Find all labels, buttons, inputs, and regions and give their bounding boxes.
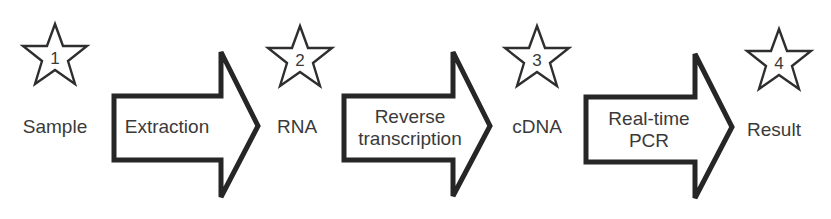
step-label-line1: Real-time <box>608 108 689 129</box>
node-cdna: 3 cDNA <box>505 26 569 137</box>
step-arrow-real-time-pcr: Real-time PCR <box>586 54 732 198</box>
step-arrow-extraction: Extraction <box>114 52 258 197</box>
step-number: 2 <box>295 51 304 70</box>
node-label: RNA <box>277 116 317 137</box>
workflow-diagram: 1 Sample Extraction 2 RNA Reverse transc… <box>0 0 831 219</box>
node-rna: 2 RNA <box>268 26 332 137</box>
step-arrow-reverse-transcription: Reverse transcription <box>344 52 490 196</box>
node-label: Result <box>747 119 802 140</box>
step-label: Extraction <box>125 116 209 137</box>
step-number: 4 <box>774 54 783 73</box>
step-label-line1: Reverse <box>375 106 446 127</box>
node-result: 4 Result <box>747 29 811 140</box>
step-label-line2: PCR <box>629 130 669 151</box>
step-label-line2: transcription <box>358 128 462 149</box>
node-label: Sample <box>23 116 87 137</box>
step-number: 1 <box>50 49 59 68</box>
step-number: 3 <box>532 51 541 70</box>
node-sample: 1 Sample <box>23 24 87 137</box>
node-label: cDNA <box>512 116 562 137</box>
